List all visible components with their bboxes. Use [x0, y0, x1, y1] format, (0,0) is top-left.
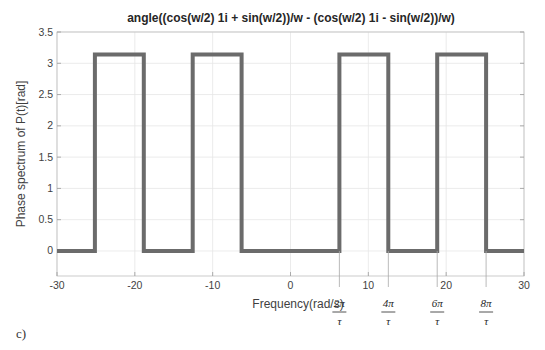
annotation-denominator: τ: [484, 315, 489, 327]
x-tick-label: -20: [127, 279, 142, 291]
annotation-denominator: τ: [435, 315, 440, 327]
y-tick-label: 3.5: [38, 26, 53, 38]
chart-title: angle((cos(w/2) 1i + sin(w/2))/w - (cos(…: [127, 11, 455, 25]
grid-lines: [57, 32, 524, 276]
x-tick-label: 30: [518, 279, 530, 291]
y-tick-label: 2.5: [38, 88, 53, 100]
y-tick-label: 2: [47, 119, 53, 131]
annotation-denominator: τ: [386, 315, 391, 327]
x-tick-label: 20: [440, 279, 452, 291]
annotation-numerator: 6π: [432, 297, 444, 309]
y-tick-label: 3: [47, 57, 53, 69]
annotation-numerator: 4π: [383, 297, 395, 309]
y-tick-label: 1.5: [38, 151, 53, 163]
x-tick-label: 10: [362, 279, 374, 291]
x-tick-label: -10: [205, 279, 220, 291]
annotation-denominator: τ: [337, 315, 342, 327]
frequency-annotations: 2πτ4πτ6πτ8πτ: [332, 251, 493, 327]
y-tick-label: 0: [47, 244, 53, 256]
x-axis-ticks: -30-20-100102030: [49, 272, 530, 291]
y-axis-ticks: 00.511.522.533.5: [38, 26, 524, 257]
annotation-numerator: 8π: [481, 297, 493, 309]
panel-label: c): [16, 326, 26, 341]
x-axis-label: Frequency(rad/s): [252, 297, 343, 311]
y-tick-label: 1: [47, 182, 53, 194]
y-axis-label: Phase spectrum of P(t)[rad]: [14, 81, 28, 228]
annotation-numerator: 2π: [334, 297, 346, 309]
y-tick-label: 0.5: [38, 213, 53, 225]
x-tick-label: -30: [49, 279, 64, 291]
phase-spectrum-chart: angle((cos(w/2) 1i + sin(w/2))/w - (cos(…: [0, 0, 545, 350]
x-tick-label: 0: [288, 279, 294, 291]
